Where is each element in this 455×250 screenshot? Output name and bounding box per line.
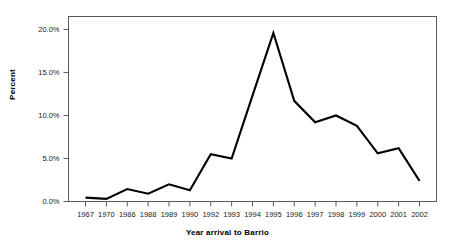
y-tick-label: 0.0%	[42, 197, 59, 206]
x-tick-label: 1989	[161, 210, 178, 219]
line-chart-plot: 0.0%5.0%10.0%15.0%20.0% 1967197019861988…	[0, 0, 455, 250]
y-tick-label-group: 0.0%5.0%10.0%15.0%20.0%	[38, 25, 60, 206]
percent-series-line	[86, 33, 420, 199]
x-tick-label: 1999	[349, 210, 366, 219]
x-tick-label: 2002	[411, 210, 428, 219]
x-tick-label: 1998	[328, 210, 345, 219]
x-tick-label-group: 1967197019861988198919901992199319941995…	[77, 210, 428, 219]
x-tick-label: 1988	[140, 210, 157, 219]
x-tick-label: 1992	[202, 210, 219, 219]
x-tick-label: 1997	[307, 210, 324, 219]
x-tick-label: 1996	[286, 210, 303, 219]
x-tick-mark-group	[86, 202, 420, 207]
x-tick-label: 1967	[77, 210, 94, 219]
x-tick-label: 1995	[265, 210, 282, 219]
y-tick-label: 5.0%	[42, 154, 59, 163]
plot-frame	[69, 17, 437, 202]
y-tick-mark-group	[64, 29, 69, 201]
x-axis-title: Year arrival to Barrio	[0, 228, 455, 237]
x-tick-label: 1990	[182, 210, 199, 219]
x-tick-label: 2001	[390, 210, 407, 219]
x-tick-label: 1986	[119, 210, 136, 219]
y-tick-label: 10.0%	[38, 111, 60, 120]
y-tick-label: 15.0%	[38, 68, 60, 77]
chart-figure: Percent 0.0%5.0%10.0%15.0%20.0% 19671970…	[0, 0, 455, 250]
x-tick-label: 1994	[244, 210, 261, 219]
x-tick-label: 1970	[98, 210, 115, 219]
x-tick-label: 2000	[369, 210, 386, 219]
y-tick-label: 20.0%	[38, 25, 60, 34]
x-tick-label: 1993	[223, 210, 240, 219]
